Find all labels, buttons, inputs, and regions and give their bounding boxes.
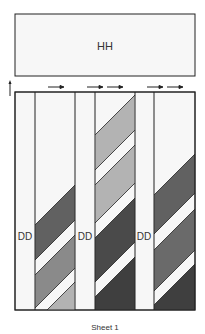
right-arrow-icon: [147, 86, 163, 89]
right-arrow-icon: [167, 86, 183, 89]
caption: Sheet 1: [91, 323, 119, 332]
right-arrow-icon: [87, 86, 103, 89]
diagram-canvas: HH DD DD DD: [0, 0, 205, 334]
dd-label: DD: [137, 231, 151, 242]
header-box: HH: [15, 14, 195, 76]
arrow-icons: [48, 86, 183, 89]
right-arrow-icon: [107, 86, 123, 89]
header-label: HH: [97, 40, 113, 52]
right-arrow-icon: [48, 86, 64, 89]
dd-label: DD: [18, 231, 32, 242]
dd-label: DD: [78, 231, 92, 242]
up-arrow-icon: [9, 80, 12, 96]
